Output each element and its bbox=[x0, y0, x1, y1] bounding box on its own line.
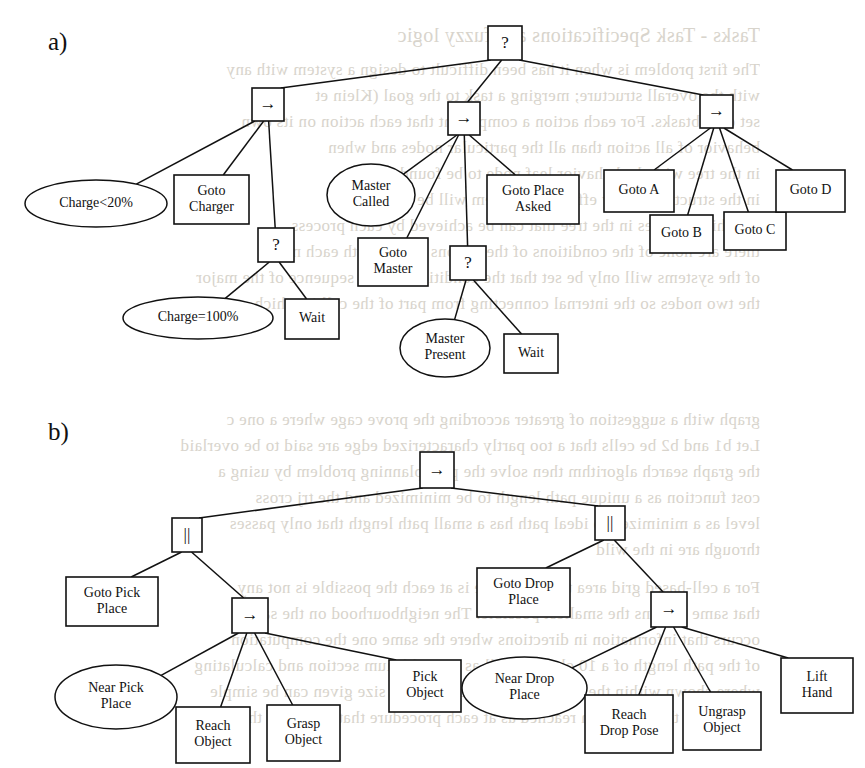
tree-node-par-right[interactable]: || bbox=[595, 506, 625, 540]
node-label: ? bbox=[501, 33, 509, 52]
node-label: Goto B bbox=[661, 225, 702, 240]
node-label: Grasp bbox=[287, 716, 320, 731]
tree-edge bbox=[614, 540, 663, 592]
edges-group bbox=[131, 60, 792, 707]
tree-edge bbox=[654, 128, 710, 170]
node-label: ? bbox=[272, 235, 280, 254]
node-label: → bbox=[242, 605, 259, 624]
tree-node-goto-a[interactable]: Goto A bbox=[604, 170, 674, 212]
node-label: Present bbox=[424, 347, 465, 362]
node-label: Goto bbox=[198, 183, 226, 198]
node-label: Place bbox=[97, 601, 127, 616]
node-label: Goto bbox=[379, 245, 407, 260]
tree-node-near-pick-place[interactable]: Near PickPlace bbox=[55, 665, 177, 729]
node-label: Object bbox=[703, 720, 740, 735]
node-label: ? bbox=[464, 253, 472, 272]
tree-edge bbox=[464, 135, 467, 246]
tree-node-seq-right[interactable]: → bbox=[651, 592, 687, 627]
tree-node-par-left[interactable]: || bbox=[172, 518, 202, 552]
node-label: Master bbox=[352, 178, 391, 193]
node-label: Goto D bbox=[790, 182, 832, 197]
node-label: → bbox=[708, 101, 725, 120]
node-label: Asked bbox=[515, 199, 551, 214]
node-label: Goto A bbox=[619, 182, 661, 197]
tree-node-pick-object[interactable]: PickObject bbox=[389, 660, 461, 712]
tree-edge bbox=[281, 60, 491, 88]
tree-edge bbox=[451, 488, 598, 506]
node-label: Charge=100% bbox=[158, 309, 239, 324]
node-label: → bbox=[661, 599, 678, 618]
node-label: Lift bbox=[807, 669, 828, 684]
tree-edge bbox=[682, 627, 789, 658]
node-label: || bbox=[184, 525, 191, 544]
tree-node-seq-left[interactable]: → bbox=[232, 598, 268, 633]
tree-node-wait-master[interactable]: Wait bbox=[504, 334, 558, 373]
node-label: Near Pick bbox=[88, 680, 144, 695]
node-label: → bbox=[260, 94, 277, 113]
node-label: Place bbox=[508, 592, 538, 607]
node-label: → bbox=[429, 460, 446, 479]
tree-node-charge-eq100[interactable]: Charge=100% bbox=[123, 297, 273, 339]
tree-node-reach-drop-pose[interactable]: ReachDrop Pose bbox=[585, 695, 673, 753]
tree-node-ungrasp-object[interactable]: UngraspObject bbox=[683, 692, 761, 750]
tree-node-fallback-master[interactable]: ? bbox=[450, 246, 486, 280]
tree-edge bbox=[223, 121, 263, 175]
tree-node-seq-left[interactable]: → bbox=[252, 88, 284, 121]
tree-node-root[interactable]: ? bbox=[488, 26, 522, 60]
tree-edge bbox=[225, 262, 269, 298]
tree-edge bbox=[407, 135, 459, 238]
tree-node-master-present[interactable]: MasterPresent bbox=[400, 319, 490, 377]
tree-node-reach-object[interactable]: ReachObject bbox=[176, 707, 250, 763]
tree-node-charge-lt20[interactable]: Charge<20% bbox=[25, 180, 167, 227]
tree-edge bbox=[221, 633, 247, 707]
tree-edge bbox=[255, 633, 293, 705]
tree-edge bbox=[161, 633, 238, 675]
node-label: Ungrasp bbox=[698, 704, 745, 719]
tree-node-goto-place-asked[interactable]: Goto PlaceAsked bbox=[487, 175, 579, 224]
node-label: Goto Drop bbox=[493, 576, 553, 591]
node-label: Place bbox=[101, 696, 131, 711]
tree-edge bbox=[639, 627, 666, 695]
tree-edge bbox=[674, 627, 711, 692]
tree-node-goto-d[interactable]: Goto D bbox=[776, 170, 845, 212]
tree-edge bbox=[473, 280, 521, 334]
nodes-group: a)b)?→→→Charge<20%GotoCharger?Charge=100… bbox=[25, 26, 853, 763]
node-label: Wait bbox=[518, 345, 544, 360]
node-label: || bbox=[607, 513, 614, 532]
node-label: Object bbox=[285, 732, 322, 747]
node-label: Goto C bbox=[735, 222, 776, 237]
tree-edge bbox=[199, 488, 423, 518]
tree-node-master-called[interactable]: MasterCalled bbox=[327, 164, 415, 226]
tree-node-fallback-charge[interactable]: ? bbox=[258, 228, 294, 262]
tree-edge bbox=[546, 540, 604, 568]
tree-node-goto-master[interactable]: GotoMaster bbox=[358, 238, 428, 286]
tree-node-goto-pick-place[interactable]: Goto PickPlace bbox=[66, 577, 158, 626]
tree-edge bbox=[469, 135, 515, 175]
node-label: Place bbox=[509, 687, 539, 702]
tree-node-goto-drop-place[interactable]: Goto DropPlace bbox=[477, 568, 570, 617]
tree-edge bbox=[279, 262, 307, 299]
tree-node-lift-hand[interactable]: LiftHand bbox=[781, 658, 853, 713]
tree-node-goto-b[interactable]: Goto B bbox=[650, 215, 713, 253]
tree-node-wait-charge[interactable]: Wait bbox=[285, 299, 339, 339]
node-label: Charge<20% bbox=[59, 195, 133, 210]
panel-label-b: b) bbox=[48, 418, 69, 446]
node-label: Pick bbox=[413, 669, 438, 684]
tree-node-seq-mid[interactable]: → bbox=[448, 102, 480, 135]
node-label: Reach bbox=[196, 718, 231, 733]
node-label: Drop Pose bbox=[600, 723, 659, 738]
node-label: Goto Pick bbox=[84, 585, 140, 600]
tree-edge bbox=[572, 627, 657, 668]
tree-edge bbox=[688, 128, 714, 215]
node-label: Hand bbox=[802, 685, 832, 700]
tree-node-root[interactable]: → bbox=[420, 452, 454, 488]
tree-node-near-drop-place[interactable]: Near DropPlace bbox=[462, 657, 587, 719]
tree-node-goto-c[interactable]: Goto C bbox=[724, 212, 786, 250]
tree-node-seq-right[interactable]: → bbox=[700, 95, 733, 128]
tree-node-goto-charger[interactable]: GotoCharger bbox=[174, 175, 249, 224]
node-label: Wait bbox=[299, 310, 325, 325]
tree-edge bbox=[269, 121, 276, 228]
node-label: → bbox=[456, 108, 473, 127]
tree-node-grasp-object[interactable]: GraspObject bbox=[267, 705, 340, 761]
tree-edge bbox=[455, 280, 466, 320]
